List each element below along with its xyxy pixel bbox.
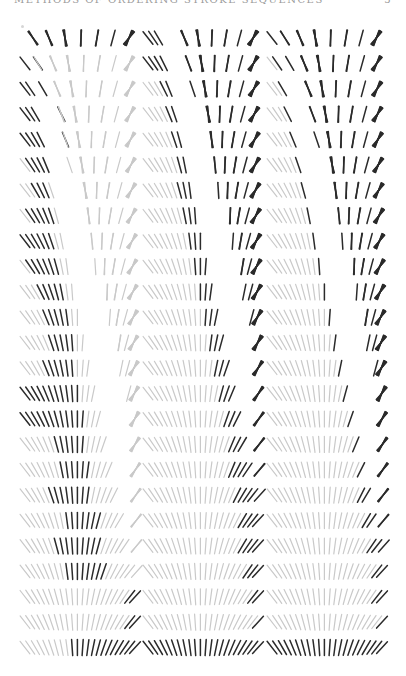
stroke-light	[49, 513, 54, 528]
stroke-dark	[72, 436, 73, 452]
stroke-light	[334, 564, 336, 580]
stroke-light	[334, 411, 336, 427]
stroke-light	[91, 233, 92, 249]
stroke-dark	[224, 386, 229, 401]
stroke-dark	[377, 642, 388, 654]
stroke-dark	[39, 82, 47, 96]
stroke-light	[195, 335, 196, 351]
stroke-dark	[82, 487, 83, 503]
stroke-light	[143, 362, 153, 375]
stroke-light	[20, 337, 30, 350]
stroke-light	[183, 462, 186, 478]
stroke-dark	[65, 30, 66, 46]
stroke-dark	[377, 591, 388, 603]
stroke-dark	[307, 640, 310, 656]
stroke-light	[219, 615, 223, 630]
stroke-light	[101, 615, 106, 630]
stroke-light	[210, 538, 212, 554]
figure-row	[143, 411, 264, 427]
stroke-light	[87, 437, 89, 453]
stroke-light	[301, 259, 305, 274]
stroke-light	[97, 56, 100, 72]
stroke-dark	[273, 57, 282, 70]
stroke-light	[313, 335, 315, 351]
stroke-light	[219, 462, 223, 477]
stroke-light	[20, 489, 30, 502]
stroke-light	[87, 386, 89, 402]
stroke-light	[177, 335, 181, 350]
stroke-light	[54, 589, 58, 604]
stroke-light	[348, 437, 353, 452]
stroke-light	[60, 233, 63, 249]
stroke-dark	[246, 234, 250, 249]
figure-row	[143, 233, 261, 249]
stroke-light	[66, 640, 68, 656]
stroke-dark	[198, 30, 199, 46]
stroke-light	[189, 386, 191, 402]
stroke-dark	[49, 310, 54, 325]
stroke-light	[267, 514, 277, 527]
stroke-light	[334, 437, 336, 453]
stroke-light	[172, 513, 177, 528]
figure-row	[267, 538, 389, 554]
stroke-light	[189, 564, 191, 580]
stroke-light	[109, 309, 110, 325]
stroke-light	[20, 514, 30, 527]
stroke-dark	[343, 386, 347, 401]
stroke-light	[92, 614, 95, 630]
stroke-dark	[248, 32, 259, 44]
stroke-dark	[143, 57, 153, 70]
stroke-light	[307, 462, 310, 478]
stroke-light	[101, 437, 106, 452]
figure-row	[20, 411, 140, 427]
stroke-light	[172, 310, 177, 325]
stroke-dark	[211, 132, 212, 148]
stroke-light	[60, 513, 63, 529]
stroke-light	[183, 589, 186, 605]
stroke-dark	[125, 591, 135, 604]
stroke-light	[205, 513, 206, 529]
stroke-dark	[101, 640, 106, 655]
stroke-light	[343, 437, 347, 452]
stroke-light	[54, 234, 58, 249]
stroke-light	[143, 464, 153, 477]
stroke-light	[224, 513, 229, 528]
stroke-dark	[201, 55, 202, 71]
stroke-light	[334, 360, 336, 376]
figure-row	[143, 513, 263, 529]
stroke-light	[313, 462, 315, 478]
stroke-dark	[82, 436, 83, 452]
stroke-dark	[375, 312, 386, 324]
figure-row	[143, 462, 265, 478]
stroke-light	[114, 107, 118, 122]
stroke-light	[177, 386, 181, 401]
stroke-dark	[60, 487, 63, 503]
stroke-light	[183, 437, 186, 453]
stroke-light	[63, 132, 68, 147]
stroke-light	[301, 284, 305, 299]
stroke-light	[126, 185, 137, 197]
stroke-light	[172, 259, 177, 274]
stroke-light	[189, 360, 191, 376]
stroke-dark	[54, 411, 58, 426]
figure-row	[143, 309, 263, 325]
stroke-light	[313, 284, 315, 300]
stroke-light	[343, 462, 347, 477]
stroke-light	[54, 564, 58, 579]
stroke-light	[60, 640, 63, 656]
stroke-dark	[87, 640, 89, 656]
stroke-light	[92, 462, 95, 478]
stroke-dark	[66, 360, 68, 376]
stroke-light	[301, 488, 305, 503]
figure-row	[20, 436, 140, 452]
stroke-light	[143, 489, 153, 502]
stroke-light	[348, 462, 353, 477]
stroke-light	[20, 286, 30, 299]
stroke-light	[215, 614, 218, 630]
stroke-dark	[248, 641, 258, 654]
stroke-light	[82, 386, 83, 402]
stroke-light	[215, 564, 218, 580]
figure-row	[267, 208, 384, 224]
stroke-dark	[54, 361, 58, 376]
stroke-light	[296, 386, 301, 401]
